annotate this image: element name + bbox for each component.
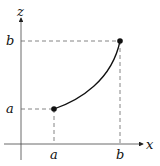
diagram: z x b a a b — [0, 0, 160, 166]
x-tick-a: a — [50, 147, 58, 162]
x-axis-label: x — [146, 137, 154, 152]
z-axis-label: z — [16, 4, 24, 19]
z-tick-b: b — [6, 33, 14, 48]
dashed-guides — [21, 41, 120, 144]
point-end — [117, 38, 123, 44]
x-tick-b: b — [116, 147, 124, 162]
point-start — [51, 106, 57, 112]
z-tick-a: a — [6, 101, 14, 116]
curve — [54, 41, 120, 109]
